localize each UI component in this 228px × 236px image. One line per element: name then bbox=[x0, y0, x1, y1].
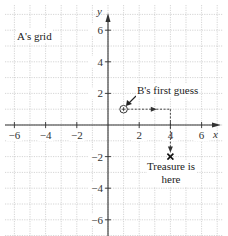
y-tick-label: 6 bbox=[98, 24, 104, 36]
y-tick-label: −2 bbox=[91, 151, 103, 163]
x-tick-label: 2 bbox=[136, 129, 142, 141]
x-tick-label: 6 bbox=[199, 129, 205, 141]
y-tick-label: −4 bbox=[91, 182, 103, 194]
x-axis-arrowhead-icon bbox=[212, 123, 221, 128]
y-axis-label: y bbox=[96, 5, 102, 17]
arrowhead-down-icon bbox=[168, 147, 173, 153]
treasure-label-line2: here bbox=[162, 173, 181, 185]
y-tick-label: 4 bbox=[98, 56, 104, 68]
first-guess-label: B's first guess bbox=[137, 84, 198, 96]
x-tick-label: −2 bbox=[71, 129, 83, 141]
x-axis-label: x bbox=[212, 128, 218, 140]
treasure-label-line1: Treasure is bbox=[147, 160, 195, 172]
x-tick-label: −6 bbox=[9, 129, 21, 141]
y-tick-label: 2 bbox=[98, 87, 104, 99]
guess-paths bbox=[126, 96, 173, 153]
y-tick-label: −6 bbox=[91, 214, 103, 226]
axes bbox=[5, 13, 221, 236]
coordinate-grid-diagram: −6−4−2246642−2−4−6 A's grid B's first gu… bbox=[0, 0, 228, 236]
arrowhead-right-icon bbox=[151, 107, 157, 112]
grid-title: A's grid bbox=[17, 30, 52, 42]
x-tick-label: −4 bbox=[40, 129, 52, 141]
